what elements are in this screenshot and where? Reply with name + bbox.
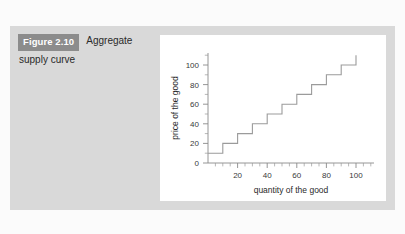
supply-curve-series (208, 55, 356, 153)
y-axis-tick-labels: 0 20 40 60 80 100 (186, 61, 200, 168)
figure-panel: Figure 2.10 Aggregate supply curve (10, 26, 395, 210)
y-axis-ticks (203, 55, 208, 163)
y-tick-label: 100 (186, 61, 200, 70)
supply-curve-chart: 20 40 60 80 100 (160, 35, 386, 201)
x-tick-label: 60 (292, 171, 301, 180)
x-tick-label: 100 (349, 171, 363, 180)
figure-caption: Figure 2.10 Aggregate supply curve (18, 34, 166, 66)
y-tick-label: 40 (190, 120, 199, 129)
x-axis-ticks (215, 163, 370, 168)
y-tick-label: 80 (190, 81, 199, 90)
y-tick-label: 20 (190, 139, 199, 148)
y-tick-label: 0 (195, 159, 200, 168)
y-axis-title: price of the good (170, 76, 180, 140)
x-tick-label: 80 (322, 171, 331, 180)
x-axis-title: quantity of the good (254, 185, 329, 195)
caption-title-part1: Aggregate (86, 34, 132, 48)
x-axis-tick-labels: 20 40 60 80 100 (233, 171, 363, 180)
figure-number-badge: Figure 2.10 (18, 34, 79, 51)
caption-title-part2: supply curve (18, 54, 166, 67)
x-tick-label: 40 (263, 171, 272, 180)
chart-card: 20 40 60 80 100 (160, 35, 386, 201)
x-tick-label: 20 (233, 171, 242, 180)
figure-screenshot: Figure 2.10 Aggregate supply curve (0, 0, 405, 234)
y-tick-label: 60 (190, 100, 199, 109)
caption-first-line: Figure 2.10 Aggregate (18, 34, 166, 51)
chart-axes (208, 53, 374, 163)
